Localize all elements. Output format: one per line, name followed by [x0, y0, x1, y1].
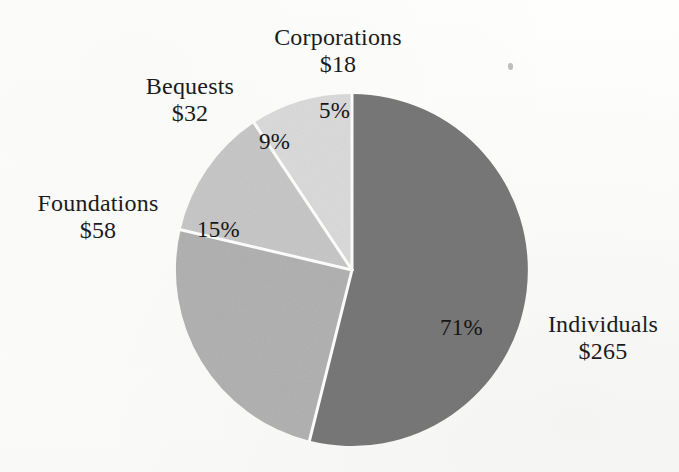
scan-artifact-speck	[508, 63, 513, 70]
pie-label-individuals-value: $265	[528, 338, 678, 365]
pie-label-foundations: Foundations $58	[8, 190, 188, 244]
pie-label-foundations-value: $58	[8, 217, 188, 244]
pie-label-corporations: Corporations $18	[243, 24, 433, 78]
pie-label-individuals-category: Individuals	[528, 311, 678, 338]
pie-chart-figure: Corporations $18 Bequests $32 Foundation…	[0, 0, 679, 472]
pie-percent-corporations: 5%	[319, 98, 350, 124]
pie-label-bequests-category: Bequests	[110, 73, 270, 100]
pie-label-individuals: Individuals $265	[528, 311, 678, 365]
pie-percent-bequests: 9%	[259, 129, 290, 155]
pie-label-bequests: Bequests $32	[110, 73, 270, 127]
pie-label-corporations-category: Corporations	[243, 24, 433, 51]
pie-label-foundations-category: Foundations	[8, 190, 188, 217]
pie-label-corporations-value: $18	[243, 51, 433, 78]
pie-label-bequests-value: $32	[110, 100, 270, 127]
pie-percent-foundations: 15%	[197, 217, 240, 243]
pie-percent-individuals: 71%	[440, 315, 483, 341]
